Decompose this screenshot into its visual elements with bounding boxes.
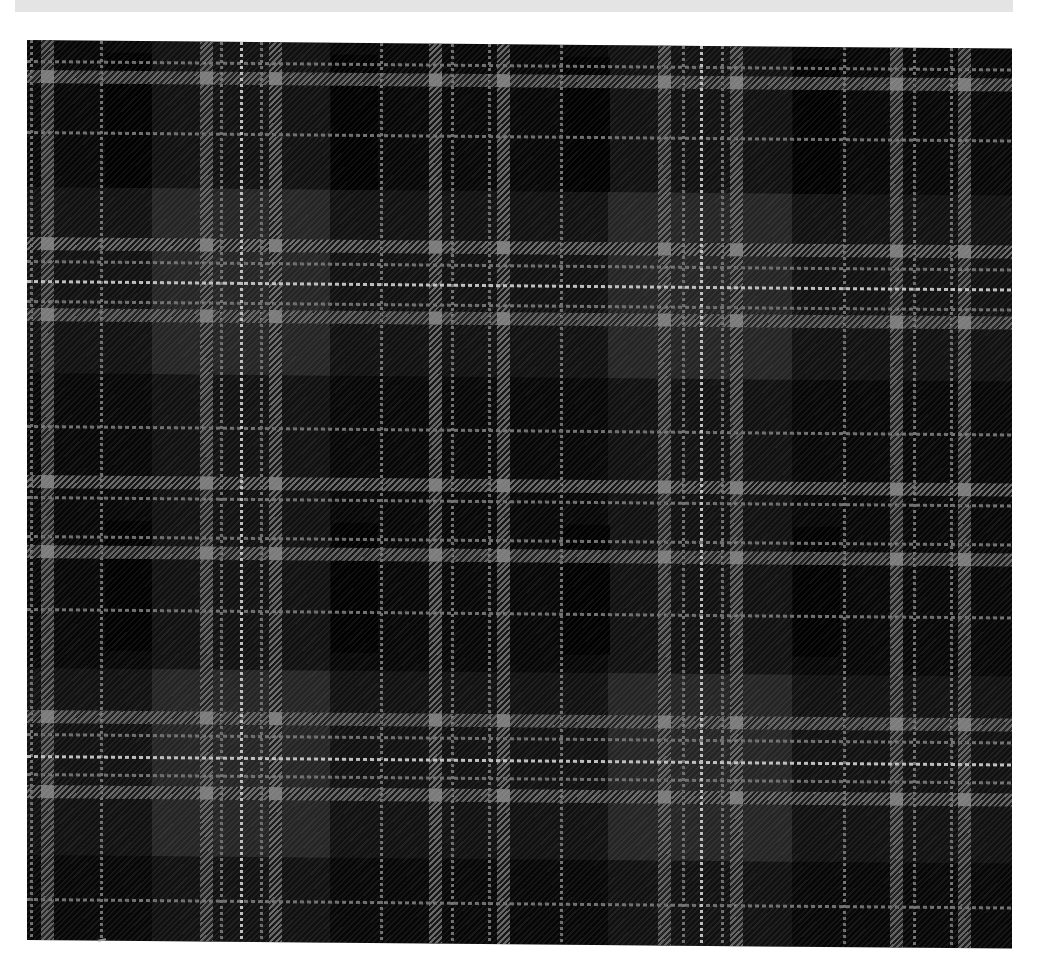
twill-texture bbox=[27, 40, 1012, 949]
caption-strip bbox=[15, 0, 1013, 12]
stray-mark bbox=[98, 938, 106, 942]
tartan-fabric-photo bbox=[27, 40, 1012, 949]
